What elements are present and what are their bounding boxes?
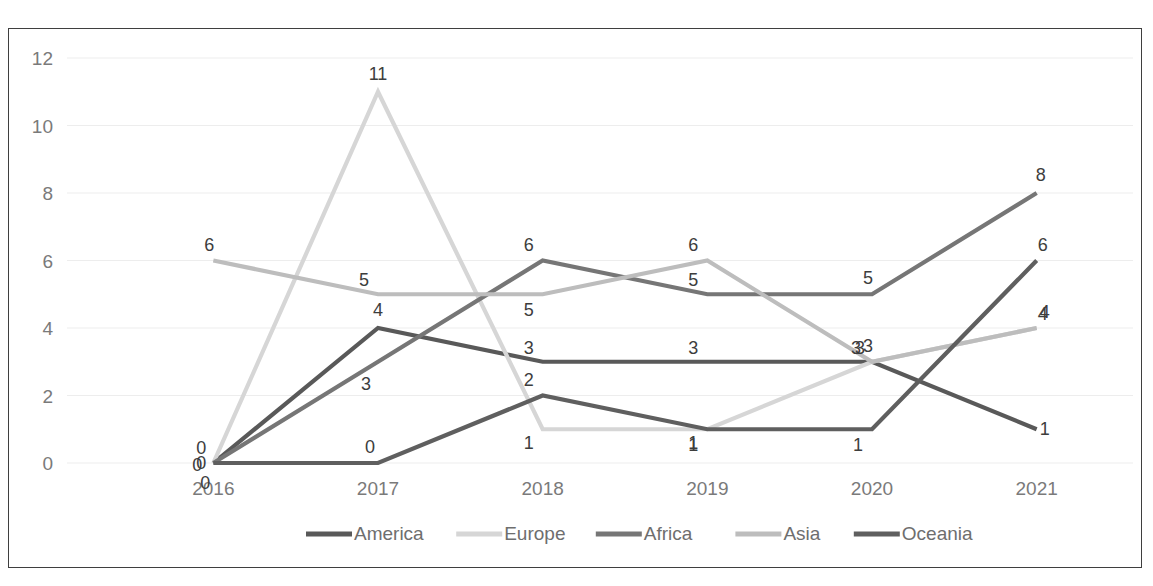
data-label: 6: [1038, 235, 1048, 255]
data-label: 1: [853, 435, 863, 455]
data-label: 11: [369, 64, 388, 84]
data-label: 0: [192, 455, 202, 475]
data-label: 5: [863, 268, 873, 288]
x-axis-tick-label: 2021: [1016, 478, 1058, 499]
legend-item-africa[interactable]: Africa: [596, 523, 693, 544]
legend-item-europe[interactable]: Europe: [456, 523, 565, 544]
data-label: 3: [863, 336, 873, 356]
x-axis-tick-label: 2018: [522, 478, 564, 499]
series-group: [213, 92, 1036, 463]
data-label: 6: [688, 235, 698, 255]
legend-item-america[interactable]: America: [306, 523, 424, 544]
data-label: 5: [688, 270, 698, 290]
data-label: 5: [359, 270, 369, 290]
legend-label: Oceania: [902, 523, 973, 544]
data-label: 5: [524, 300, 534, 320]
data-label: 8: [1036, 165, 1046, 185]
x-axis-tick-label: 2017: [357, 478, 399, 499]
data-label: 3: [688, 338, 698, 358]
x-axis-tick-label: 2016: [192, 478, 234, 499]
data-label: 1: [524, 433, 534, 453]
y-axis-tick-label: 12: [32, 48, 53, 69]
y-axis-tick-label: 2: [42, 386, 53, 407]
legend-label: Africa: [644, 523, 693, 544]
y-axis-tick-labels: 024681012: [32, 48, 54, 474]
data-label: 0: [365, 437, 375, 457]
x-axis-tick-label: 2019: [686, 478, 728, 499]
legend-label: Europe: [504, 523, 565, 544]
data-label: 1: [688, 435, 698, 455]
data-label: 4: [373, 300, 383, 320]
y-axis-tick-label: 6: [42, 251, 53, 272]
y-axis-tick-label: 10: [32, 116, 53, 137]
data-label: 2: [524, 370, 534, 390]
x-axis-tick-labels: 201620172018201920202021: [192, 478, 1058, 499]
legend-item-oceania[interactable]: Oceania: [854, 523, 973, 544]
y-axis-tick-label: 4: [42, 318, 53, 339]
data-label: 1: [1040, 419, 1050, 439]
chart-frame: 0246810122016201720182019202020210433310…: [8, 28, 1142, 568]
data-label: 4: [1040, 302, 1050, 322]
data-label: 0: [200, 473, 210, 493]
line-chart: 0246810122016201720182019202020210433310…: [9, 29, 1140, 566]
y-axis-tick-label: 0: [42, 453, 53, 474]
legend: AmericaEuropeAfricaAsiaOceania: [306, 523, 973, 544]
data-label: 3: [851, 338, 861, 358]
legend-label: America: [354, 523, 424, 544]
data-label: 6: [204, 235, 214, 255]
legend-item-asia[interactable]: Asia: [735, 523, 820, 544]
data-label: 3: [524, 338, 534, 358]
y-axis-tick-label: 8: [42, 183, 53, 204]
legend-label: Asia: [783, 523, 820, 544]
series-line-asia: [213, 261, 1036, 362]
x-axis-tick-label: 2020: [851, 478, 893, 499]
data-label: 6: [524, 235, 534, 255]
data-label: 3: [361, 374, 371, 394]
